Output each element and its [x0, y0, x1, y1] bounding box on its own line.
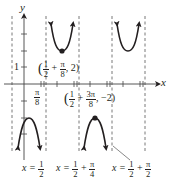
y-tick-label-1: 1 [14, 62, 19, 72]
curve-branches [18, 24, 139, 148]
den: 2 [145, 170, 151, 179]
point-label-minimum: (12 + π8, 2) [38, 60, 79, 78]
tail: , −2) [96, 92, 115, 103]
plus: + [77, 92, 83, 103]
lhs: x = [56, 162, 70, 173]
branch-up-1 [51, 24, 73, 51]
branch-down-2 [84, 118, 106, 148]
point-label-maximum: (12 + 3π8, −2) [64, 90, 115, 108]
asymptote-label-1: x = 12 [22, 160, 44, 178]
plus: + [51, 62, 57, 73]
den: 2 [69, 100, 75, 109]
x-tick-label-pi-over-8: π8 [34, 88, 40, 106]
asymptote-label-3: x = 12 + π2 [112, 160, 151, 178]
branch-down-1 [18, 118, 40, 148]
lhs: x = [22, 162, 36, 173]
tail: , 2) [66, 62, 79, 73]
point-maximum [92, 115, 97, 120]
plus: + [81, 162, 87, 173]
plus: + [137, 162, 143, 173]
x-axis-label: x [161, 77, 166, 88]
den: 2 [38, 170, 44, 179]
asymptote-label-2: x = 12 + π4 [56, 160, 95, 178]
den: 2 [72, 170, 78, 179]
den: 2 [43, 70, 49, 79]
branch-up-2 [117, 24, 139, 51]
point-minimum [59, 48, 64, 53]
tick-den: 8 [34, 98, 40, 107]
lhs: x = [112, 162, 126, 173]
leader-line [113, 146, 130, 160]
den: 8 [86, 100, 97, 109]
y-axis-label: y [20, 2, 25, 13]
den: 4 [89, 170, 95, 179]
axes [4, 16, 158, 160]
den: 2 [128, 170, 134, 179]
